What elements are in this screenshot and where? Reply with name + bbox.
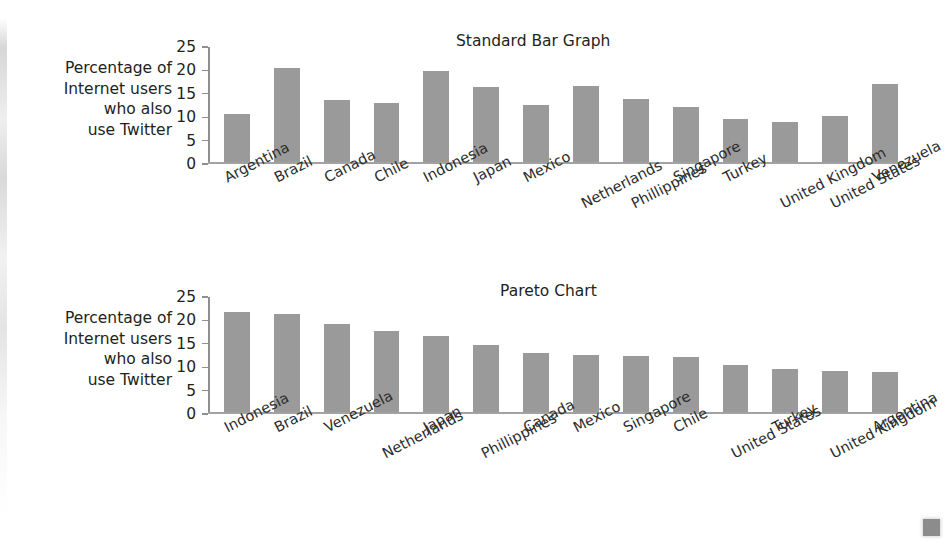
page-corner-mark <box>923 519 940 536</box>
chart-1-y-tick-label: 5 <box>170 384 196 400</box>
chart-1-y-tick-label: 25 <box>170 290 196 306</box>
chart-0-y-tick-label: 10 <box>170 110 196 126</box>
chart-0-plot-area: 0510152025 <box>208 47 906 164</box>
bar <box>523 353 549 412</box>
bar <box>723 365 749 413</box>
chart-1-y-tick-label: 0 <box>170 407 196 423</box>
chart-0-y-tick-label: 25 <box>170 40 196 56</box>
chart-1-y-tick-label: 20 <box>170 313 196 329</box>
chart-0-y-tick <box>202 93 209 94</box>
chart-0-axis-label: Percentage of Internet users who also us… <box>24 58 172 140</box>
chart-1-y-tick <box>202 413 209 414</box>
chart-1-y-tick <box>202 343 209 344</box>
bar <box>673 107 699 162</box>
chart-0-y-tick <box>202 46 209 47</box>
chart-0-bars <box>208 47 906 162</box>
chart-1-y-tick <box>202 320 209 321</box>
bar <box>573 355 599 413</box>
bar <box>822 116 848 163</box>
chart-1-y-tick-label: 10 <box>170 360 196 376</box>
chart-1-axis-label: Percentage of Internet users who also us… <box>24 308 172 390</box>
chart-0-y-tick-label: 15 <box>170 87 196 103</box>
chart-0-y-tick <box>202 140 209 141</box>
bar <box>423 336 449 413</box>
chart-1-y-tick <box>202 367 209 368</box>
bar <box>473 345 499 412</box>
chart-0-y-tick <box>202 70 209 71</box>
bar <box>573 86 599 163</box>
bar <box>872 372 898 413</box>
bar <box>324 324 350 412</box>
bar <box>224 114 250 162</box>
chart-1-y-tick <box>202 296 209 297</box>
bar <box>623 99 649 163</box>
chart-1-plot-area: 0510152025 <box>208 297 906 414</box>
chart-1-y-tick <box>202 390 209 391</box>
chart-0-y-tick-label: 0 <box>170 157 196 173</box>
bar <box>772 369 798 413</box>
bar <box>623 356 649 412</box>
chart-0-y-tick <box>202 163 209 164</box>
bar <box>523 105 549 163</box>
figure-page: Percentage of Internet users who also us… <box>0 0 948 546</box>
chart-pareto-chart: Percentage of Internet users who also us… <box>0 250 948 546</box>
chart-0-y-tick-label: 20 <box>170 63 196 79</box>
chart-standard-bar-graph: Percentage of Internet users who also us… <box>0 0 948 260</box>
bar <box>423 71 449 163</box>
chart-0-y-tick-label: 5 <box>170 134 196 150</box>
bar <box>324 100 350 163</box>
chart-1-bars <box>208 297 906 412</box>
bar <box>374 103 400 162</box>
chart-0-y-tick <box>202 117 209 118</box>
bar <box>224 312 250 412</box>
bar <box>822 371 848 413</box>
bar <box>772 122 798 163</box>
chart-1-y-tick-label: 15 <box>170 337 196 353</box>
